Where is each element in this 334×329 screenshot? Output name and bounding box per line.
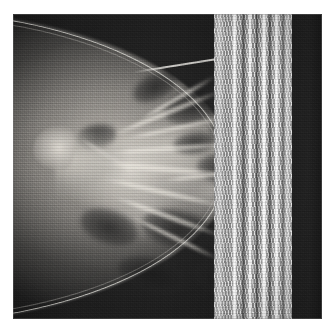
medical-image-viewer (0, 0, 334, 329)
scan-lines (13, 14, 322, 319)
mammogram-image (13, 14, 322, 319)
